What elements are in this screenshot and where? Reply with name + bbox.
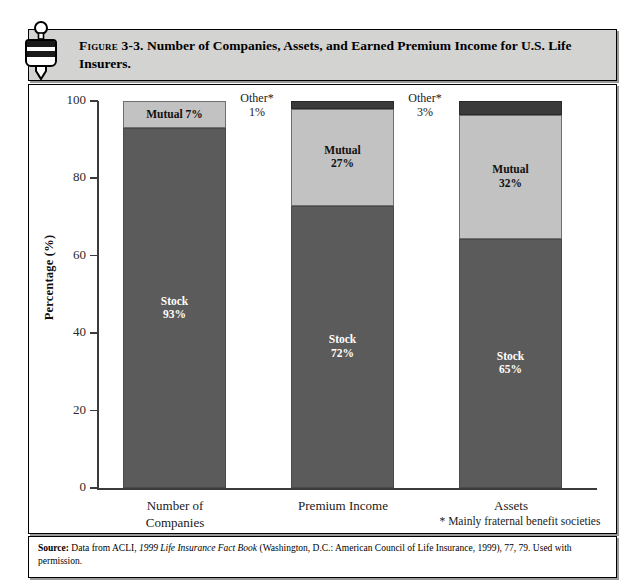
figure-number-label: Figure 3-3. — [79, 38, 144, 53]
x-category-label-assets: Assets — [461, 497, 561, 514]
bar3-segment-mutual[interactable]: Mutual 32% — [459, 115, 562, 239]
bar1-segment-stock[interactable]: Stock 93% — [123, 128, 226, 488]
y-axis-line — [97, 101, 99, 490]
bar2-stock-pct: 72% — [329, 347, 356, 361]
figure-caption-text: Figure 3-3. Number of Companies, Assets,… — [79, 37, 607, 72]
y-tick-mark — [90, 255, 98, 257]
bar2-stock-name: Stock — [329, 333, 356, 345]
y-tick-label: 60 — [40, 247, 86, 263]
bar-premium-income[interactable]: Mutual 27% Stock 72% — [291, 101, 394, 488]
source-text: Source: Data from ACLI, 1999 Life Insura… — [38, 542, 610, 568]
bar2-mutual-name: Mutual — [324, 144, 360, 156]
y-tick-mark — [90, 487, 98, 489]
x-category-label-companies: Number of Companies — [125, 497, 225, 531]
y-tick-label: 0 — [40, 479, 86, 495]
y-tick-mark — [90, 410, 98, 412]
bar3-stock-label: Stock 65% — [497, 350, 524, 377]
y-tick-label: 100 — [40, 92, 86, 108]
bar2-stock-label: Stock 72% — [329, 333, 356, 360]
bar1-stock-name: Stock — [161, 295, 188, 307]
bar3-stock-pct: 65% — [497, 363, 524, 377]
bar3-mutual-pct: 32% — [492, 177, 528, 191]
bar2-mutual-pct: 27% — [324, 157, 360, 171]
bar3-other-name: Other* — [408, 91, 441, 105]
bar2-other-name: Other* — [240, 91, 273, 105]
bar3-segment-stock[interactable]: Stock 65% — [459, 239, 562, 489]
figure-caption-band: Figure 3-3. Number of Companies, Assets,… — [28, 29, 617, 81]
bar3-mutual-label: Mutual 32% — [492, 163, 528, 190]
y-tick-mark — [90, 177, 98, 179]
chart-footnote: * Mainly fraternal benefit societies — [425, 515, 615, 527]
bar2-mutual-label: Mutual 27% — [324, 144, 360, 171]
figure-title: Number of Companies, Assets, and Earned … — [79, 38, 572, 71]
stamp-plumb-icon — [22, 20, 60, 82]
x-axis-line — [97, 488, 597, 490]
bar2-other-pct: 1% — [249, 105, 265, 119]
bar1-mutual-label: Mutual 7% — [146, 108, 203, 122]
bar3-mutual-name: Mutual — [492, 163, 528, 175]
bar2-other-callout: Other* 1% — [227, 91, 287, 119]
bar-assets[interactable]: Mutual 32% Stock 65% — [459, 101, 562, 488]
y-tick-label: 20 — [40, 402, 86, 418]
bar2-segment-mutual[interactable]: Mutual 27% — [291, 109, 394, 206]
chart-plot-box: Percentage (%) 100 80 60 40 — [28, 84, 617, 534]
bar3-segment-other[interactable] — [459, 101, 562, 115]
bar1-stock-pct: 93% — [161, 308, 188, 322]
bar3-other-callout: Other* 3% — [395, 91, 455, 119]
y-tick-mark — [90, 332, 98, 334]
x-category-label-premium-income: Premium Income — [293, 497, 393, 514]
figure-container: Figure 3-3. Number of Companies, Assets,… — [0, 0, 637, 585]
source-box: Source: Data from ACLI, 1999 Life Insura… — [28, 536, 617, 578]
source-label: Source: — [38, 543, 69, 553]
bar1-stock-label: Stock 93% — [161, 295, 188, 322]
y-tick-label: 40 — [40, 324, 86, 340]
y-tick-label: 80 — [40, 169, 86, 185]
source-text-before: Data from ACLI, — [69, 543, 139, 553]
y-tick-mark — [90, 100, 98, 102]
bar3-stock-name: Stock — [497, 350, 524, 362]
bar2-segment-stock[interactable]: Stock 72% — [291, 206, 394, 489]
source-publication-title: 1999 Life Insurance Fact Book — [139, 543, 257, 553]
chart-area: Percentage (%) 100 80 60 40 — [29, 85, 616, 533]
bar-number-of-companies[interactable]: Mutual 7% Stock 93% — [123, 101, 226, 488]
bar3-other-pct: 3% — [417, 105, 433, 119]
bar2-segment-other[interactable] — [291, 101, 394, 109]
bar1-segment-mutual[interactable]: Mutual 7% — [123, 101, 226, 128]
